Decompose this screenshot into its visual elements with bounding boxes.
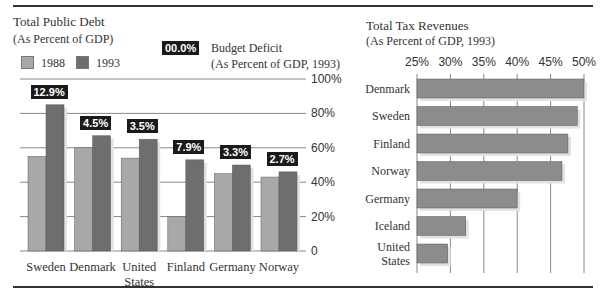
debt-bar-1988-finland [168, 217, 186, 251]
tax-category-label: Finland [373, 137, 410, 151]
debt-ytick-label: 0 [311, 244, 318, 258]
debt-category-label: United [122, 260, 157, 274]
deficit-label: 7.9% [173, 140, 204, 154]
debt-category-label: Germany [209, 260, 256, 274]
tax-xtick-label: 30% [438, 55, 462, 69]
debt-bar-1993-denmark [93, 136, 111, 251]
tax-category-label: Norway [371, 164, 410, 178]
debt-ytick-label: 60% [311, 141, 335, 155]
deficit-label: 4.5% [80, 116, 111, 130]
debt-bar-1988-united-states [121, 158, 139, 251]
tax-xtick-label: 35% [472, 55, 496, 69]
tax-bar-sweden [417, 107, 577, 126]
tax-xtick-label: 40% [505, 55, 529, 69]
debt-category-label: Finland [167, 260, 206, 274]
debt-bar-1988-denmark [75, 148, 93, 251]
tax-bar-denmark [417, 79, 584, 98]
deficit-label: 2.7% [267, 152, 298, 166]
debt-bar-1993-germany [232, 165, 250, 251]
tax-category-label: Sweden [372, 109, 410, 123]
tax-bar-iceland [417, 217, 466, 236]
tax-bar-norway [417, 162, 562, 181]
debt-bar-1988-germany [214, 174, 232, 251]
tax-bar-finland [417, 134, 568, 153]
debt-ytick-label: 100% [311, 72, 342, 86]
tax-xtick-label: 25% [405, 55, 429, 69]
debt-bar-1993-norway [279, 172, 297, 251]
tax-category-label: Iceland [375, 219, 410, 233]
debt-bar-1993-finland [186, 160, 204, 251]
debt-bar-1988-sweden [28, 156, 46, 251]
debt-category-label: Sweden [26, 260, 66, 274]
debt-category-label: Norway [259, 260, 300, 274]
tax-category-label: United [377, 240, 410, 254]
tax-bar-united-states [417, 244, 448, 263]
deficit-label: 3.3% [220, 145, 251, 159]
deficit-label: 12.9% [31, 85, 68, 99]
deficit-label: 3.5% [127, 119, 158, 133]
debt-ytick-label: 20% [311, 210, 335, 224]
debt-bar-1988-norway [261, 177, 279, 251]
debt-bar-1993-united-states [139, 139, 157, 251]
tax-category-label: Denmark [365, 82, 410, 96]
tax-bar-germany [417, 189, 517, 208]
charts-canvas: 020%40%60%80%100%SwedenDenmarkUnitedStat… [0, 0, 607, 303]
debt-category-label: Denmark [69, 260, 116, 274]
tax-xtick-label: 45% [539, 55, 563, 69]
debt-ytick-label: 40% [311, 175, 335, 189]
debt-ytick-label: 80% [311, 106, 335, 120]
tax-xtick-label: 50% [572, 55, 596, 69]
debt-category-label: States [124, 275, 154, 289]
tax-category-label: States [381, 254, 410, 268]
debt-bar-1993-sweden [46, 105, 64, 251]
tax-category-label: Germany [365, 192, 410, 206]
